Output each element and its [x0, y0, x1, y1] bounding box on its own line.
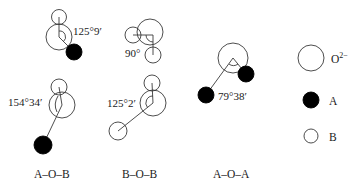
- a-ion: [34, 136, 52, 154]
- angle-label: 154°34′: [8, 96, 42, 108]
- legend-label-oxygen: O2−: [331, 51, 348, 65]
- legend: [298, 45, 324, 143]
- a-ion: [66, 44, 82, 60]
- angle-label: 125°2′: [107, 97, 136, 109]
- column-label: A–O–B: [34, 168, 70, 180]
- legend-a-symbol: [303, 92, 319, 108]
- a-ion: [238, 66, 254, 82]
- angle-label: 79°38′: [218, 90, 247, 102]
- angle-label: 125°9′: [73, 25, 102, 37]
- angle-label: 90°: [125, 47, 140, 59]
- legend-oxygen-symbol: [298, 45, 324, 71]
- a-ion: [198, 87, 214, 103]
- legend-b-symbol: [304, 129, 318, 143]
- column-label: B–O–B: [122, 168, 157, 180]
- column-label: A–O–A: [213, 168, 250, 180]
- legend-label-a: A: [329, 95, 338, 107]
- legend-label-b: B: [329, 131, 337, 143]
- aob-bottom-structure: [34, 79, 75, 154]
- bond-angle-diagram: 125°9′ 90° 154°34′ 125°2′ 79°38′ A–O–B B…: [0, 0, 353, 188]
